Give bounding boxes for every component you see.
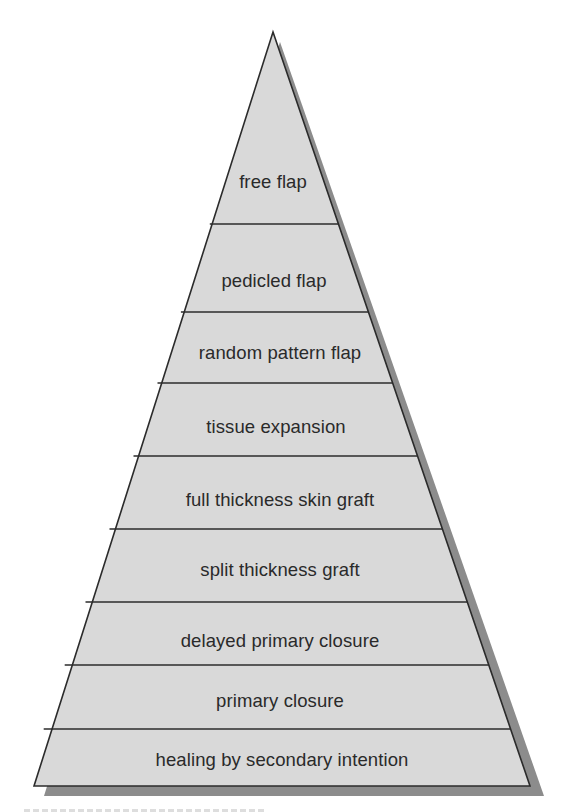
- layer-free-flap: free flap: [239, 171, 307, 193]
- layer-full-thickness-skin-graft: full thickness skin graft: [186, 489, 375, 511]
- figure-caption-truncated: [24, 806, 264, 812]
- layer-primary-closure: primary closure: [216, 690, 344, 712]
- layer-random-pattern-flap: random pattern flap: [199, 342, 361, 364]
- layer-delayed-primary-closure: delayed primary closure: [181, 630, 380, 652]
- layer-healing-by-secondary-intention: healing by secondary intention: [156, 749, 409, 771]
- reconstructive-ladder-figure: free flap pedicled flap random pattern f…: [0, 0, 569, 812]
- layer-pedicled-flap: pedicled flap: [221, 270, 326, 292]
- pyramid-body: [34, 32, 530, 786]
- layer-tissue-expansion: tissue expansion: [206, 416, 345, 438]
- layer-split-thickness-graft: split thickness graft: [200, 559, 359, 581]
